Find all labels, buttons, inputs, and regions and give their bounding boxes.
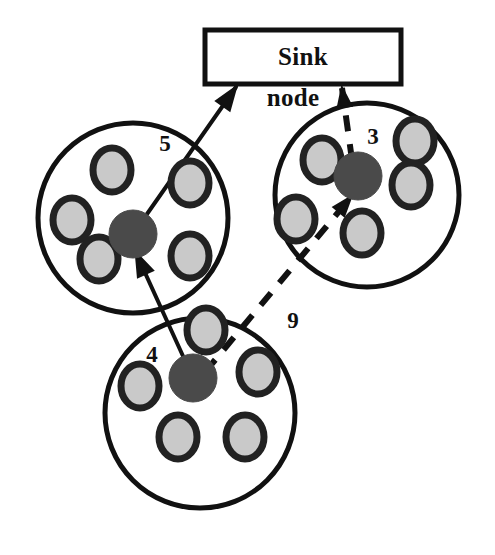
sink-node-title: Sink: [278, 43, 328, 70]
right-cluster-head-node[interactable]: [334, 152, 382, 200]
left-cluster-member-node[interactable]: [171, 161, 209, 205]
left-cluster-to-sink-weight-label: 5: [159, 131, 171, 156]
left-cluster-member-node[interactable]: [93, 148, 131, 192]
bottom-cluster-to-left-cluster-weight-label: 4: [146, 342, 158, 367]
right-cluster-member-node[interactable]: [396, 119, 434, 163]
right-cluster-member-node[interactable]: [277, 197, 315, 241]
left-cluster-member-node[interactable]: [53, 198, 91, 242]
bottom-cluster-member-node[interactable]: [187, 308, 225, 352]
bottom-cluster-member-node[interactable]: [226, 415, 264, 459]
bottom-cluster-member-node[interactable]: [159, 415, 197, 459]
left-cluster-member-node[interactable]: [171, 234, 209, 278]
right-cluster-to-sink-weight-label: 3: [367, 124, 379, 149]
diagram-canvas: Sink node 5493: [0, 0, 495, 555]
bottom-cluster-member-node[interactable]: [121, 364, 159, 408]
right-cluster-member-node[interactable]: [343, 211, 381, 255]
cluster-network-diagram: Sink node 5493: [0, 0, 495, 555]
sink-node-subtitle: node: [267, 84, 320, 111]
bottom-cluster-to-right-cluster-weight-label: 9: [287, 308, 299, 333]
bottom-cluster-head-node[interactable]: [169, 354, 217, 402]
right-cluster-member-node[interactable]: [392, 163, 430, 207]
bottom-cluster-member-node[interactable]: [239, 350, 277, 394]
left-cluster-head-node[interactable]: [109, 210, 157, 258]
left-cluster-to-sink-arrowhead: [216, 87, 236, 110]
